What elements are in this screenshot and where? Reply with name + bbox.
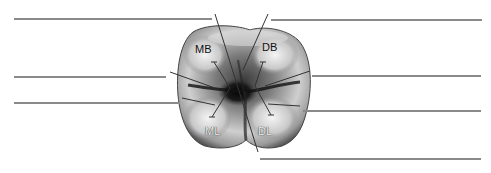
answer-line-2[interactable] [271, 19, 482, 21]
answer-line-5[interactable] [312, 75, 481, 77]
answer-line-1[interactable] [14, 18, 212, 20]
cusp-label-mb: MB [195, 44, 212, 55]
answer-line-6[interactable] [303, 110, 481, 112]
cusp-label-db: DB [262, 42, 277, 53]
cusp-label-dl: DL [258, 126, 272, 137]
cusp-label-ml: ML [205, 126, 220, 137]
answer-line-3[interactable] [14, 76, 166, 78]
answer-line-7[interactable] [260, 158, 481, 160]
tooth-illustration [0, 0, 491, 173]
tooth-diagram: MB DB ML DL [0, 0, 491, 173]
answer-line-4[interactable] [14, 102, 180, 104]
